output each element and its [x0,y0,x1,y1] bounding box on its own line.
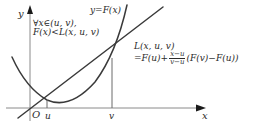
convexity-condition: ∀x∈(u, v), F(x)<L(x, u, v) [33,19,99,38]
chord-prefix: =F(u)+ [134,53,168,63]
origin-label: O [32,110,40,121]
x-axis-label: x [202,111,208,122]
y-axis-label: y [18,9,24,20]
chord-line-2: =F(u)+x−uv−u(F(v)−F(u)) [134,51,238,66]
chord-suffix: (F(v)−F(u)) [186,53,238,63]
chord-line-1: L(x, u, v) [134,42,238,51]
chord-formula: L(x, u, v) =F(u)+x−uv−u(F(v)−F(u)) [134,42,238,66]
tick-label-u: u [45,112,51,121]
fraction-denominator: v−u [169,59,185,66]
chord-fraction: x−uv−u [169,51,185,66]
curve-label: y=F(x) [90,6,121,15]
condition-line-2: F(x)<L(x, u, v) [33,28,99,37]
tick-label-v: v [109,112,114,121]
convexity-diagram: y x O u v y=F(x) ∀x∈(u, v), F(x)<L(x, u,… [0,0,258,138]
